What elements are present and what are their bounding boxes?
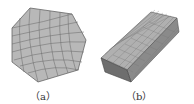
panel-b-label: （b）: [126, 88, 152, 103]
panel-a-label: （a）: [30, 88, 56, 103]
